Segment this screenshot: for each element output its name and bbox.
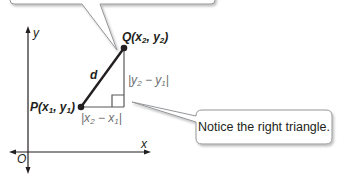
point-q-name: Q [122, 30, 131, 44]
segment-d-label: d [90, 69, 97, 81]
y-axis-label: y [33, 27, 39, 39]
point-p [78, 104, 85, 111]
point-q-label: Q(x2, y2) [122, 31, 168, 45]
segment-d [81, 48, 124, 107]
x-axis-label: x [141, 138, 147, 150]
right-triangle-callout-text: Notice the right triangle. [196, 110, 332, 144]
horizontal-leg-mid: − x [95, 111, 115, 125]
diagram-graphics [0, 0, 337, 177]
point-q [121, 45, 128, 52]
point-p-name: P [30, 100, 38, 114]
vertical-leg-open: |y [128, 73, 137, 87]
origin-label: O [17, 153, 26, 165]
x-axis [9, 150, 151, 155]
horizontal-leg-close: | [119, 111, 122, 125]
right-angle-marker [112, 95, 124, 107]
vertical-leg-label: |y2 − y1| [128, 74, 169, 88]
top-callout-bubble [10, 0, 215, 50]
vertical-leg-mid: − y [142, 73, 162, 87]
horizontal-leg-open: |x [81, 111, 90, 125]
point-p-y-subscript: 1 [66, 106, 70, 115]
horizontal-leg-label: |x2 − x1| [81, 112, 122, 126]
distance-formula-diagram: y x O Q(x2, y2) P(x1, y1) d |y2 − y1| |x… [0, 0, 337, 177]
point-q-x-subscript: 2 [142, 36, 146, 45]
point-p-label: P(x1, y1) [30, 101, 75, 115]
vertical-leg-close: | [166, 73, 169, 87]
point-q-y-subscript: 2 [160, 36, 164, 45]
point-p-x-subscript: 1 [49, 106, 53, 115]
